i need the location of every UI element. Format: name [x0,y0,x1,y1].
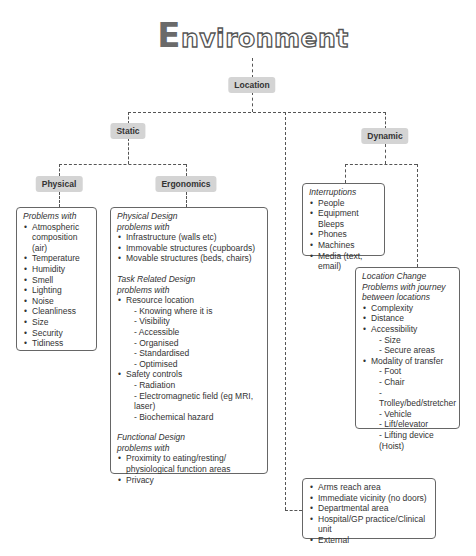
physical-box: Problems with Atmospheric composition (a… [16,207,97,351]
list-item: Immediate vicinity (no doors) [309,493,430,504]
sub-item: - Optimised [117,359,262,370]
location-change-subheading-2: between locations [362,292,454,303]
connector [186,164,187,176]
list-item: Privacy [117,475,262,486]
list-item: Smell [23,275,91,286]
interruptions-heading: Interruptions [309,187,379,198]
physical-heading: Problems with [23,211,91,222]
interruptions-box: Interruptions People Equipment Bleeps Ph… [302,183,385,256]
connector [385,112,386,129]
location-change-box: Location Change Problems with journey be… [355,267,460,429]
list-item: Proximity to eating/resting/ physiologic… [117,453,262,474]
list-item: Cleanliness [23,306,91,317]
sub-item: - Trolley/bed/stretcher [362,388,454,409]
sub-item: - Foot [362,366,454,377]
list-item: Humidity [23,264,91,275]
task-design-subheading: problems with [117,285,262,296]
list-item: Machines [309,240,379,251]
location-change-subheading: Problems with journey [362,282,454,293]
list-item: Safety controls [117,369,262,380]
connector [385,144,386,164]
sub-item: - Electromagnetic field (eg MRI, laser) [117,391,262,412]
ergonomics-box: Physical Design problems with Infrastruc… [110,207,268,474]
sub-item: - Size [362,335,454,346]
list-item: Arms reach area [309,482,430,493]
physical-design-heading: Physical Design [117,211,262,222]
list-item: Immovable structures (cupboards) [117,243,262,254]
sub-item: - Organised [117,338,262,349]
connector [186,192,187,207]
list-item: Equipment Bleeps [309,208,379,229]
connector [252,92,253,112]
sub-item: - Biochemical hazard [117,412,262,423]
sub-item: - Radiation [117,380,262,391]
connector [285,112,286,510]
location-change-heading: Location Change [362,271,454,282]
list-item: Phones [309,229,379,240]
list-item: Security [23,328,91,339]
list-item: Hospital/GP practice/Clinical unit [309,514,430,535]
diagram-title: Environment [0,18,476,56]
list-item: Temperature [23,253,91,264]
sub-item: - Knowing where it is [117,306,262,317]
connector [345,164,417,165]
list-item: Noise [23,296,91,307]
node-physical: Physical [36,176,83,192]
connector [345,164,346,183]
list-item: Infrastructure (walls etc) [117,232,262,243]
title-initial: E [157,15,181,55]
connector [59,164,60,176]
sub-item: - Vehicle [362,409,454,420]
node-location: Location [228,77,275,93]
connector [285,510,302,511]
functional-design-subheading: problems with [117,443,262,454]
list-item: Movable structures (beds, chairs) [117,253,262,264]
scope-box: Arms reach area Immediate vicinity (no d… [302,478,436,539]
title-rest: nvironment [181,24,349,53]
connector [252,58,253,78]
sub-item: - Standardised [117,348,262,359]
connector [59,164,186,165]
connector [417,164,418,267]
connector [128,112,386,113]
list-item: External [309,535,430,546]
list-item: Lighting [23,285,91,296]
physical-design-subheading: problems with [117,222,262,233]
list-item: Complexity [362,303,454,314]
sub-item: - Visibility [117,316,262,327]
task-design-heading: Task Related Design [117,274,262,285]
list-item: Size [23,317,91,328]
list-item: Modality of transfer [362,356,454,367]
node-static: Static [110,123,145,139]
sub-item: - Secure areas [362,345,454,356]
node-ergonomics: Ergonomics [155,176,216,192]
list-item: Distance [362,313,454,324]
list-item: Departmental area [309,503,430,514]
node-dynamic: Dynamic [361,128,408,144]
list-item: Atmospheric composition (air) [23,222,91,254]
sub-item: - Chair [362,377,454,388]
list-item: People [309,198,379,209]
sub-item: - Accessible [117,327,262,338]
list-item: Accessibility [362,324,454,335]
sub-item: - Lifting device (Hoist) [362,430,454,451]
connector [59,192,60,207]
sub-item: - Lift/elevator [362,419,454,430]
functional-design-heading: Functional Design [117,432,262,443]
list-item: Tidiness [23,338,91,349]
connector [128,138,129,164]
list-item: Resource location [117,295,262,306]
